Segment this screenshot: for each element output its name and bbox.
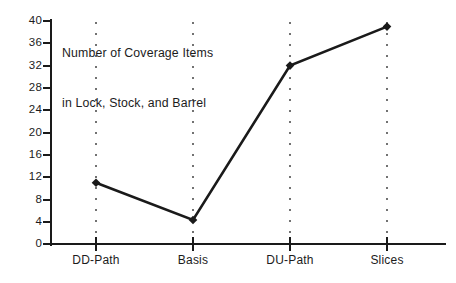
data-series-layer	[0, 0, 456, 283]
series-line-coverage-items	[96, 27, 387, 220]
series-markers	[92, 22, 392, 224]
data-point-marker-dd-path	[92, 178, 101, 187]
chart-figure: 0 4 8 12 16 20 24 28 32 36 40 DD-Path Ba…	[0, 0, 456, 283]
data-point-marker-slices	[383, 22, 392, 31]
